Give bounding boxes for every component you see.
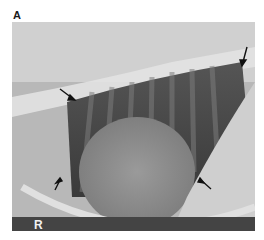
panel-label: A [13,9,21,21]
radiograph-illustration [12,22,255,231]
side-marker: R [34,218,43,232]
radiograph-image [12,22,255,231]
